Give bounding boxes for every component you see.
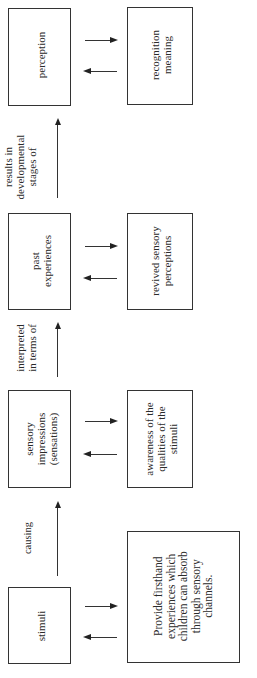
perception-label: perception bbox=[35, 7, 47, 104]
recognition-box: recognition meaning bbox=[127, 7, 193, 105]
results-in-label: results in developmental stages of bbox=[2, 119, 38, 215]
arrowhead-left-icon bbox=[83, 68, 91, 74]
awareness-box: awareness of the qualities of the stimul… bbox=[127, 390, 193, 488]
provide-experiences-label: Provide firsthand experiences which chil… bbox=[152, 529, 215, 664]
sensory-impressions-box: sensory impressions (sensations) bbox=[8, 390, 71, 488]
arrowhead-right-icon bbox=[110, 37, 118, 43]
stimuli-box: stimuli bbox=[8, 587, 71, 664]
arrowhead-left-icon bbox=[83, 634, 91, 640]
arrowhead-right-icon bbox=[110, 243, 118, 249]
recognition-label: recognition meaning bbox=[149, 7, 173, 104]
arrowhead-up-icon bbox=[55, 501, 61, 508]
revived-perceptions-label: revived sensory perceptions bbox=[149, 213, 173, 310]
arrowhead-left-icon bbox=[83, 275, 91, 281]
arrowhead-up-icon bbox=[55, 118, 61, 125]
arrowhead-right-icon bbox=[110, 418, 118, 424]
past-experiences-label: past experiences bbox=[29, 213, 53, 310]
arrowhead-up-icon bbox=[55, 322, 61, 329]
perception-box: perception bbox=[8, 8, 71, 106]
provide-experiences-box: Provide firsthand experiences which chil… bbox=[127, 531, 240, 663]
revived-perceptions-box: revived sensory perceptions bbox=[127, 213, 193, 310]
arrowhead-right-icon bbox=[110, 603, 118, 609]
sensory-impressions-label: sensory impressions (sensations) bbox=[23, 391, 59, 488]
causing-label: causing bbox=[22, 508, 34, 568]
awareness-label: awareness of the qualities of the stimul… bbox=[143, 391, 179, 488]
arrowhead-left-icon bbox=[83, 451, 91, 457]
past-experiences-box: past experiences bbox=[8, 213, 71, 310]
stimuli-label: stimuli bbox=[35, 589, 47, 664]
interpreted-label: interpreted in terms of bbox=[14, 308, 38, 388]
